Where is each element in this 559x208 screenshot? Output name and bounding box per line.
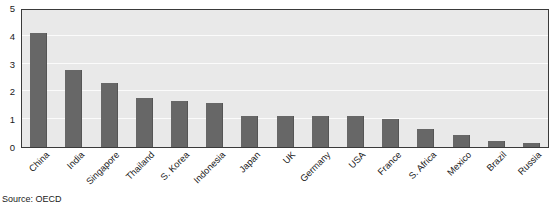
- x-tick-label-text: Brazil: [485, 149, 509, 173]
- y-tick-label: 1: [10, 115, 15, 125]
- x-tick-label-text: Indonesia: [191, 149, 227, 185]
- x-tick-label-text: Singapore: [84, 149, 122, 187]
- y-axis: 012345: [0, 9, 18, 148]
- bar: [523, 143, 540, 147]
- plot-area: [21, 9, 549, 148]
- x-tick-label-text: Russia: [517, 149, 545, 177]
- x-tick-label-text: USA: [347, 149, 368, 170]
- x-tick-label-text: France: [375, 149, 403, 177]
- chart-title-cropped: [0, 0, 559, 7]
- x-axis: ChinaIndiaSingaporeThailandS. KoreaIndon…: [21, 149, 549, 193]
- bar-series: [22, 10, 548, 147]
- chart-figure: 012345 ChinaIndiaSingaporeThailandS. Kor…: [0, 0, 559, 208]
- y-tick-label: 3: [10, 60, 15, 70]
- y-tick-label: 2: [10, 88, 15, 98]
- source-note: Source: OECD: [2, 194, 62, 204]
- bar: [277, 116, 294, 147]
- x-tick-label-text: S. Africa: [407, 149, 439, 181]
- bar: [382, 119, 399, 147]
- x-tick-label-text: Thailand: [124, 149, 157, 182]
- x-tick-label-text: India: [65, 149, 87, 171]
- x-tick-label-text: S. Korea: [159, 149, 192, 182]
- bar: [30, 33, 47, 147]
- bar: [488, 141, 505, 147]
- bar: [312, 116, 329, 147]
- x-tick-label-text: China: [27, 149, 52, 174]
- y-tick-label: 4: [10, 32, 15, 42]
- x-tick-label-text: Japan: [237, 149, 263, 175]
- y-tick-label: 5: [10, 4, 15, 14]
- y-tick-label: 0: [10, 143, 15, 153]
- x-tick-label-text: Germany: [298, 149, 333, 184]
- x-tick-label-text: Mexico: [445, 149, 474, 178]
- bar: [101, 83, 118, 147]
- x-tick-label-text: UK: [281, 149, 298, 166]
